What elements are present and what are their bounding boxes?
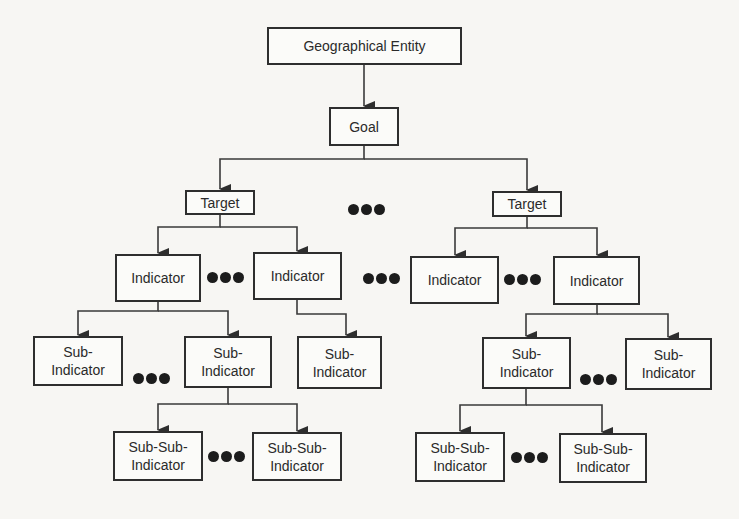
node-label: Target [508,195,547,213]
ellipsis-sub-sub-indicators-right [511,452,548,463]
dot-icon [537,452,548,463]
dot-icon [207,272,218,283]
geographical-entity-node: Geographical Entity [267,27,462,65]
ellipsis-sub-sub-indicators-left [208,451,245,462]
goal-node: Goal [329,107,399,146]
indicator-node-4: Indicator [553,256,640,305]
dot-icon [580,374,591,385]
sub-sub-indicator-node-4: Sub-Sub- Indicator [559,433,647,483]
node-label: Sub- Indicator [642,346,696,382]
indicator-node-3: Indicator [410,256,499,304]
dot-icon [524,452,535,463]
dot-icon [221,451,232,462]
node-label: Sub- Indicator [201,344,255,380]
node-label: Indicator [131,269,185,287]
node-label: Sub-Sub- Indicator [573,440,632,476]
sub-sub-indicator-node-2: Sub-Sub- Indicator [252,432,342,481]
sub-sub-indicator-node-1: Sub-Sub- Indicator [113,431,203,481]
dot-icon [517,274,528,285]
node-label: Sub-Sub- Indicator [267,439,326,475]
dot-icon [530,274,541,285]
dot-icon [146,373,157,384]
dot-icon [511,452,522,463]
dot-icon [133,373,144,384]
dot-icon [363,273,374,284]
sub-indicator-node-1: Sub- Indicator [33,336,123,386]
sub-indicator-node-4: Sub- Indicator [482,337,571,389]
dot-icon [606,374,617,385]
node-label: Sub-Sub- Indicator [128,438,187,474]
ellipsis-targets [348,204,385,215]
dot-icon [593,374,604,385]
ellipsis-sub-indicators-right [580,374,617,385]
node-label: Target [201,194,240,212]
dot-icon [234,451,245,462]
dot-icon [376,273,387,284]
target-node-right: Target [492,191,562,217]
indicator-node-2: Indicator [253,252,342,300]
dot-icon [504,274,515,285]
node-label: Indicator [570,272,624,290]
sub-sub-indicator-node-3: Sub-Sub- Indicator [415,432,505,482]
node-label: Indicator [271,267,325,285]
dot-icon [220,272,231,283]
dot-icon [389,273,400,284]
ellipsis-sub-indicators-left [133,373,170,384]
node-label: Sub- Indicator [313,345,367,381]
dot-icon [348,204,359,215]
node-label: Indicator [428,271,482,289]
ellipsis-indicators-right [504,274,541,285]
dot-icon [208,451,219,462]
node-label: Goal [349,118,379,136]
target-node-left: Target [185,190,255,215]
dot-icon [159,373,170,384]
dot-icon [233,272,244,283]
ellipsis-indicators-middle [363,273,400,284]
sub-indicator-node-2: Sub- Indicator [184,336,272,388]
dot-icon [374,204,385,215]
node-label: Sub- Indicator [500,345,554,381]
ellipsis-indicators-left [207,272,244,283]
indicator-node-1: Indicator [115,254,201,302]
node-label: Sub- Indicator [51,343,105,379]
sub-indicator-node-3: Sub- Indicator [297,336,382,389]
dot-icon [361,204,372,215]
node-label: Sub-Sub- Indicator [430,439,489,475]
node-label: Geographical Entity [303,37,425,55]
sub-indicator-node-5: Sub- Indicator [625,338,712,390]
